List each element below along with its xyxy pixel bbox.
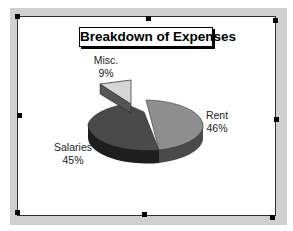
rent-label-name: Rent [202,109,232,122]
misc-label-name: Misc. [88,54,124,67]
misc-label: Misc. 9% [88,54,124,80]
rent-label-pct: 46% [202,122,232,135]
salaries-label-name: Salaries [51,141,95,154]
pie-chart-3d [0,0,293,231]
salaries-label-pct: 45% [51,154,95,167]
rent-label: Rent 46% [202,109,232,135]
misc-label-pct: 9% [88,67,124,80]
salaries-label: Salaries 45% [51,141,95,167]
